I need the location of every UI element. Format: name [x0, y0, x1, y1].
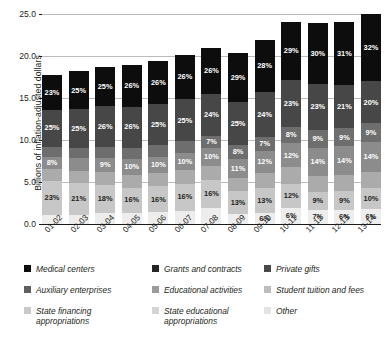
- bar-segment[interactable]: 32%: [361, 14, 381, 81]
- bar-column[interactable]: 23%25%8%23%: [42, 14, 62, 224]
- bar-segment[interactable]: [95, 147, 115, 158]
- bar-segment[interactable]: 25%: [69, 109, 89, 147]
- bar-segment[interactable]: [122, 148, 142, 159]
- bar-column[interactable]: 32%20%9%14%10%6%: [361, 14, 381, 224]
- bar-segment[interactable]: [148, 173, 168, 186]
- bar-segment[interactable]: 13%: [255, 188, 275, 212]
- bar-segment[interactable]: 29%: [281, 22, 301, 81]
- legend-item[interactable]: State educational appropriations: [152, 306, 229, 327]
- bar-segment[interactable]: 10%: [175, 153, 195, 170]
- bar-column[interactable]: 31%21%9%14%9%6%: [334, 14, 354, 224]
- bar-segment[interactable]: 30%: [308, 23, 328, 83]
- bar-column[interactable]: 28%24%7%12%13%6%: [255, 14, 275, 224]
- bar-segment[interactable]: 26%: [201, 48, 221, 94]
- bar-segment[interactable]: 25%: [69, 71, 89, 109]
- bar-segment[interactable]: 28%: [255, 40, 275, 93]
- bar-segment[interactable]: 16%: [201, 180, 221, 208]
- bar-segment[interactable]: [122, 175, 142, 188]
- bar-segment[interactable]: 7%: [255, 137, 275, 150]
- bar-segment[interactable]: [281, 167, 301, 183]
- bar-column[interactable]: 29%25%8%11%13%: [228, 14, 248, 224]
- bar-segment[interactable]: 31%: [334, 22, 354, 85]
- legend-item[interactable]: Auxiliary enterprises: [24, 285, 111, 295]
- bar-segment[interactable]: 23%: [281, 80, 301, 127]
- bar-segment[interactable]: [228, 178, 248, 192]
- bar-segment[interactable]: 9%: [308, 192, 328, 210]
- bar-segment[interactable]: [361, 172, 381, 189]
- bar-segment[interactable]: 9%: [334, 191, 354, 209]
- bar-segment[interactable]: 9%: [361, 123, 381, 142]
- bar-segment[interactable]: 18%: [95, 185, 115, 213]
- bar-segment[interactable]: 20%: [361, 81, 381, 123]
- bar-segment[interactable]: [69, 171, 89, 183]
- bar-segment[interactable]: 11%: [228, 159, 248, 178]
- bar-segment[interactable]: 16%: [122, 188, 142, 213]
- bar-segment[interactable]: 9%: [334, 128, 354, 146]
- bar-segment[interactable]: 12%: [281, 184, 301, 208]
- bar-column[interactable]: 26%24%7%10%16%: [201, 14, 221, 224]
- bar-column[interactable]: 30%23%9%14%9%7%: [308, 14, 328, 224]
- bar-segment[interactable]: 24%: [255, 92, 275, 137]
- bar-segment[interactable]: [42, 169, 62, 181]
- bar-segment[interactable]: 9%: [95, 158, 115, 172]
- bar-segment[interactable]: [69, 148, 89, 159]
- bar-segment[interactable]: 9%: [308, 130, 328, 148]
- bar-column[interactable]: 29%23%8%12%12%6%: [281, 14, 301, 224]
- bar-segment[interactable]: 8%: [281, 127, 301, 143]
- bar-segment[interactable]: 26%: [148, 61, 168, 104]
- bar-segment[interactable]: [255, 173, 275, 188]
- bar-segment[interactable]: 25%: [175, 99, 195, 141]
- legend-item[interactable]: Other: [264, 306, 297, 316]
- bar-segment[interactable]: 10%: [148, 157, 168, 173]
- bar-segment[interactable]: 25%: [42, 110, 62, 147]
- bar-segment[interactable]: 23%: [42, 75, 62, 109]
- bar-segment[interactable]: [95, 172, 115, 185]
- bar-segment[interactable]: 7%: [201, 136, 221, 148]
- bar-column[interactable]: 25%25%21%: [69, 14, 89, 224]
- bar-column[interactable]: 26%25%10%16%: [148, 14, 168, 224]
- bar-segment[interactable]: 12%: [281, 143, 301, 167]
- bar-column[interactable]: 26%26%10%16%: [122, 14, 142, 224]
- bar-column[interactable]: 26%25%10%16%: [175, 14, 195, 224]
- bar-segment[interactable]: 25%: [148, 104, 168, 145]
- bar-segment[interactable]: 8%: [42, 157, 62, 169]
- bar-segment[interactable]: [175, 141, 195, 153]
- bar-segment[interactable]: 12%: [255, 151, 275, 174]
- legend-item[interactable]: Medical centers: [24, 264, 95, 274]
- bar-column[interactable]: 25%26%9%18%: [95, 14, 115, 224]
- bar-segment[interactable]: 14%: [308, 148, 328, 176]
- bar-segment[interactable]: 26%: [122, 107, 142, 148]
- bar-segment[interactable]: 21%: [69, 183, 89, 215]
- bar-segment[interactable]: 25%: [95, 67, 115, 106]
- bar-segment[interactable]: [148, 145, 168, 157]
- legend-item[interactable]: Educational activities: [152, 285, 242, 295]
- bar-segment[interactable]: 24%: [201, 94, 221, 136]
- bar-segment[interactable]: 23%: [308, 84, 328, 130]
- bar-segment[interactable]: 21%: [334, 85, 354, 128]
- bar-segment[interactable]: [201, 166, 221, 180]
- bar-segment[interactable]: 10%: [361, 188, 381, 209]
- legend-item[interactable]: State financing appropriations: [24, 306, 91, 327]
- bar-segment[interactable]: 10%: [122, 159, 142, 175]
- legend-item[interactable]: Grants and contracts: [152, 264, 242, 274]
- bar-segment[interactable]: [175, 170, 195, 184]
- bar-segment[interactable]: 26%: [122, 65, 142, 106]
- bar-segment[interactable]: [308, 176, 328, 192]
- bar-segment[interactable]: [42, 147, 62, 157]
- bar-segment[interactable]: 14%: [361, 142, 381, 171]
- legend-item[interactable]: Student tuition and fees: [264, 285, 364, 295]
- bar-segment[interactable]: 10%: [201, 148, 221, 166]
- legend-item[interactable]: Private gifts: [264, 264, 320, 274]
- bar-segment[interactable]: 14%: [334, 146, 354, 175]
- bar-segment[interactable]: 16%: [175, 184, 195, 211]
- bar-segment[interactable]: [334, 175, 354, 191]
- bar-segment[interactable]: 16%: [148, 186, 168, 212]
- bar-segment[interactable]: 8%: [228, 145, 248, 159]
- bar-segment[interactable]: 29%: [228, 53, 248, 103]
- bar-segment[interactable]: 13%: [228, 191, 248, 213]
- bar-segment[interactable]: [69, 158, 89, 170]
- bar-segment[interactable]: 23%: [42, 181, 62, 215]
- bar-segment[interactable]: 26%: [175, 55, 195, 99]
- bar-segment[interactable]: 25%: [228, 102, 248, 145]
- bar-segment[interactable]: 26%: [95, 106, 115, 147]
